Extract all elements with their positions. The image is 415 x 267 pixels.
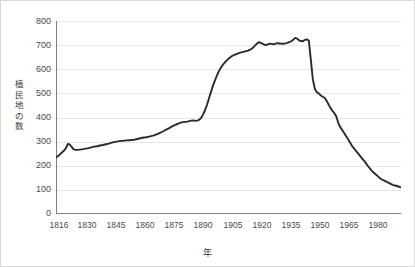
y-tick-label: 800 [23, 17, 51, 26]
y-tick-label: 500 [23, 89, 51, 98]
gridlines [56, 22, 401, 191]
x-tick-label: 1980 [360, 221, 396, 230]
y-tick-label: 100 [23, 185, 51, 194]
plot-area [56, 21, 401, 214]
y-tick-label: 0 [23, 209, 51, 218]
chart-svg [56, 21, 401, 214]
y-tick-label: 700 [23, 41, 51, 50]
y-tick-label: 300 [23, 137, 51, 146]
y-tick-label: 400 [23, 113, 51, 122]
x-axis-title: 年 [1, 246, 414, 259]
y-axis-title: 植 民 地 の 数 [10, 79, 28, 132]
axis-lines [56, 21, 401, 214]
y-tick-label: 600 [23, 65, 51, 74]
chart-figure: 植 民 地 の 数 800 700 600 500 400 300 200 10… [0, 0, 415, 267]
data-line-series-0 [56, 38, 401, 188]
y-tick-label: 200 [23, 161, 51, 170]
